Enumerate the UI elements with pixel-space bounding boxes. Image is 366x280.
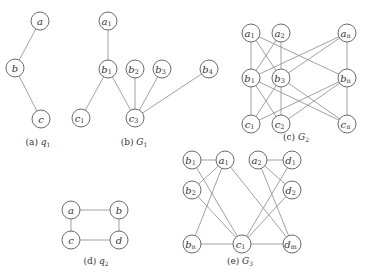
node-b: b	[110, 201, 128, 219]
node-an: an	[338, 24, 356, 42]
subfigure-q1-nodes: abc	[6, 12, 50, 128]
node-c1: c1	[233, 235, 251, 253]
node-b3: b3	[272, 69, 290, 87]
edge-an-b3	[281, 33, 347, 78]
subfigure-g2-nodes: a1a2anb1b3bnc1c2cn	[242, 24, 356, 133]
node-b4: b4	[200, 60, 218, 78]
node-c1: c1	[242, 115, 260, 133]
node-dm: dm	[283, 235, 301, 253]
subfigure-g3-nodes: b1a1a2d1b2d2bnc1dm	[183, 151, 301, 253]
node-a: a	[31, 12, 49, 30]
node-label: c	[68, 235, 74, 246]
edge-bn-a1	[192, 160, 225, 244]
caption-g3: (e) G3	[227, 256, 253, 267]
edge-a2-dm	[258, 160, 292, 244]
node-b1: b1	[99, 60, 117, 78]
subfigure-g2-edges	[251, 33, 347, 124]
node-a1: a1	[99, 12, 117, 30]
node-c: c	[62, 231, 80, 249]
node-b2: b2	[126, 60, 144, 78]
caption-g1: (b) G1	[121, 137, 148, 148]
graph-figure: abca1b1b2b3b4c1c3a1a2anb1b3bnc1c2cnabcdb…	[0, 0, 366, 280]
node-b: b	[6, 59, 24, 77]
edge-a1-dm	[225, 160, 292, 244]
node-label: b	[12, 63, 18, 74]
node-label: d	[116, 235, 122, 246]
node-c: c	[32, 110, 50, 128]
node-c1: c1	[72, 109, 90, 127]
node-a1: a1	[216, 151, 234, 169]
node-c2: c2	[272, 115, 290, 133]
node-label: a	[37, 16, 43, 27]
node-d1: d1	[283, 151, 301, 169]
node-label: c	[38, 114, 44, 125]
node-d2: d2	[283, 181, 301, 199]
node-a: a	[62, 201, 80, 219]
subfigure-g3-edges	[192, 160, 292, 244]
node-a1: a1	[242, 24, 260, 42]
caption-q1: (a) q1	[26, 137, 51, 148]
edge-c1-d1	[242, 160, 292, 244]
node-bn: bn	[338, 69, 356, 87]
node-cn: cn	[338, 115, 356, 133]
node-c3: c3	[126, 109, 144, 127]
edge-b1-c1	[192, 160, 242, 244]
caption-q2: (d) q2	[83, 256, 108, 267]
node-b1: b1	[183, 151, 201, 169]
node-b2: b2	[183, 181, 201, 199]
subfigure-g1-nodes: a1b1b2b3b4c1c3	[72, 12, 218, 127]
node-a2: a2	[249, 151, 267, 169]
node-a2: a2	[272, 24, 290, 42]
node-label: b	[116, 205, 122, 216]
edge-b4-c3	[135, 69, 209, 118]
edge-c1-d2	[242, 190, 292, 244]
node-label: a	[68, 205, 74, 216]
node-bn: bn	[183, 235, 201, 253]
subfigure-q2-nodes: abcd	[62, 201, 128, 249]
caption-g2: (c) G2	[283, 132, 309, 143]
node-b3: b3	[153, 60, 171, 78]
node-d: d	[110, 231, 128, 249]
edge-b2-c1	[192, 190, 242, 244]
node-b1: b1	[242, 69, 260, 87]
